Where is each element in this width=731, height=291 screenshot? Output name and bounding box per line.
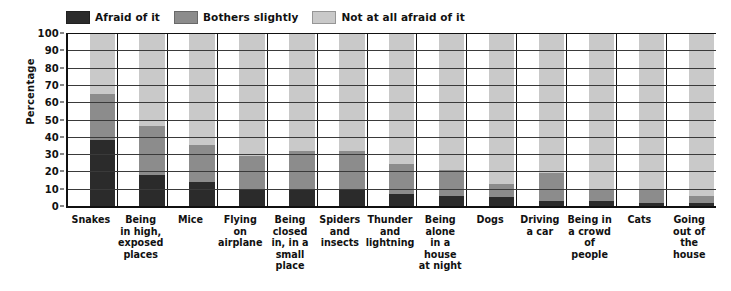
bar-segment-bothers[interactable] [339,151,364,191]
bar-segment-bothers[interactable] [489,184,514,198]
stacked-bar[interactable] [389,33,414,206]
bar-segment-bothers[interactable] [289,151,314,191]
legend-swatch-bothers [174,11,198,24]
bar-slot [617,33,667,206]
bar-segment-bothers[interactable] [239,156,264,189]
stacked-bar[interactable] [289,33,314,206]
y-tick-label: 50 [3,114,59,125]
y-tick-label: 80 [3,62,59,73]
x-axis-label: Spidersandinsects [315,214,365,291]
stacked-bar[interactable] [239,33,264,206]
stacked-bar[interactable] [90,33,115,206]
legend-item-bothers: Bothers slightly [174,11,298,24]
y-tick-label: 70 [3,79,59,90]
stacked-bar[interactable] [189,33,214,206]
bar-segment-afraid[interactable] [189,182,214,206]
y-tick-label: 0 [3,201,59,212]
stacked-bar[interactable] [539,33,564,206]
legend-label-bothers: Bothers slightly [203,11,298,23]
bar-segment-afraid[interactable] [689,203,714,206]
bar-segment-not-afraid[interactable] [289,33,314,151]
stacked-bar[interactable] [639,33,664,206]
bar-segment-bothers[interactable] [389,164,414,193]
bar-segment-not-afraid[interactable] [489,33,514,184]
bar-segment-afraid[interactable] [139,175,164,206]
bar-slot [68,33,118,206]
bar-slot [168,33,218,206]
bar-segment-afraid[interactable] [90,140,115,206]
y-tick-label: 20 [3,166,59,177]
bar-segment-bothers[interactable] [90,94,115,141]
bar-segment-bothers[interactable] [439,170,464,196]
x-axis-label: Being ina crowdof people [565,214,615,291]
bar-slot [517,33,567,206]
legend-label-afraid: Afraid of it [95,11,160,23]
bar-segment-bothers[interactable] [689,196,714,203]
x-axis-labels: SnakesBeingin high,exposedplacesMiceFlyi… [66,214,714,291]
bar-segment-not-afraid[interactable] [139,33,164,126]
bar-slot [417,33,467,206]
y-tick-mark [60,119,64,120]
y-tick-label: 60 [3,97,59,108]
bar-segment-afraid[interactable] [339,190,364,206]
y-tick-mark [60,33,64,34]
stacked-bar[interactable] [439,33,464,206]
bar-segment-not-afraid[interactable] [639,33,664,189]
legend-item-not-afraid: Not at all afraid of it [312,11,464,24]
bar-slot [667,33,716,206]
x-axis-label: Flyingonairplane [215,214,265,291]
bar-segment-not-afraid[interactable] [239,33,264,156]
chart-legend: Afraid of it Bothers slightly Not at all… [66,8,666,26]
y-tick-mark [60,154,64,155]
y-tick-mark [60,67,64,68]
stacked-bar[interactable] [489,33,514,206]
stacked-bar[interactable] [589,33,614,206]
bar-slot [318,33,368,206]
bar-segment-afraid[interactable] [439,196,464,206]
x-axis-label: Cats [615,214,665,291]
x-axis-label: Goingout ofthe house [664,214,714,291]
bar-segment-not-afraid[interactable] [689,33,714,196]
x-axis-label: Drivinga car [515,214,565,291]
bar-segment-bothers[interactable] [539,173,564,201]
x-axis-label: Mice [166,214,216,291]
bar-slot [118,33,168,206]
bar-slot [268,33,318,206]
x-axis-label: Dogs [465,214,515,291]
bar-segment-afraid[interactable] [239,189,264,206]
bar-segment-not-afraid[interactable] [90,33,115,94]
bar-segment-bothers[interactable] [189,145,214,181]
bar-segment-not-afraid[interactable] [589,33,614,190]
bar-segment-afraid[interactable] [489,197,514,206]
bar-segment-afraid[interactable] [589,201,614,206]
y-axis-ticks: 0102030405060708090100 [0,33,64,206]
bar-segment-not-afraid[interactable] [389,33,414,164]
x-axis-label: Beingin high,exposedplaces [116,214,166,291]
x-axis-label: Beingclosedin, in asmallplace [265,214,315,291]
stacked-bar[interactable] [139,33,164,206]
bar-slot [218,33,268,206]
bar-segment-not-afraid[interactable] [189,33,214,145]
bar-slot [467,33,517,206]
legend-swatch-not-afraid [312,11,336,24]
stacked-bar[interactable] [689,33,714,206]
bar-segment-not-afraid[interactable] [339,33,364,151]
bar-segment-bothers[interactable] [589,190,614,200]
stacked-bar[interactable] [339,33,364,206]
y-tick-label: 90 [3,45,59,56]
bar-segment-not-afraid[interactable] [439,33,464,170]
bar-group [68,33,716,206]
bar-slot [567,33,617,206]
bar-segment-afraid[interactable] [539,201,564,206]
x-axis-label: Thunderandlightning [365,214,416,291]
bar-segment-afraid[interactable] [389,194,414,206]
bar-segment-afraid[interactable] [289,190,314,206]
bar-segment-afraid[interactable] [639,203,664,206]
y-tick-label: 100 [3,28,59,39]
bar-segment-bothers[interactable] [139,126,164,174]
y-tick-mark [60,206,64,207]
bar-slot [368,33,418,206]
chart-plot-area [66,33,716,208]
bar-segment-bothers[interactable] [639,189,664,203]
bar-segment-not-afraid[interactable] [539,33,564,173]
